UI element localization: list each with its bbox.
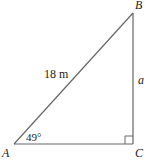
angle-label-a: 49°	[26, 131, 41, 143]
vertex-label-b: B	[135, 0, 143, 12]
side-label-a: a	[138, 73, 144, 87]
triangle-diagram: B A C a 18 m 49°	[0, 0, 154, 164]
vertex-label-c: C	[135, 146, 144, 160]
hypotenuse-label: 18 m	[44, 67, 69, 81]
side-ab-hypotenuse	[14, 13, 133, 144]
vertex-label-a: A	[1, 146, 10, 160]
right-angle-marker	[125, 136, 133, 144]
